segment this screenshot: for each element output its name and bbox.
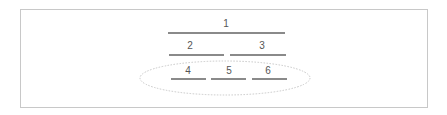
slot-label-1: 1: [223, 19, 229, 29]
slot-label-6: 6: [265, 66, 271, 76]
slot-line-2: [169, 54, 224, 56]
slot-line-6: [252, 78, 287, 80]
slot-line-4: [171, 78, 206, 80]
slot-line-5: [211, 78, 246, 80]
slot-label-4: 4: [185, 66, 191, 76]
slot-label-3: 3: [259, 41, 265, 51]
slot-label-5: 5: [226, 66, 232, 76]
slot-label-2: 2: [187, 41, 193, 51]
slot-line-1: [168, 32, 285, 34]
slot-line-3: [230, 54, 286, 56]
